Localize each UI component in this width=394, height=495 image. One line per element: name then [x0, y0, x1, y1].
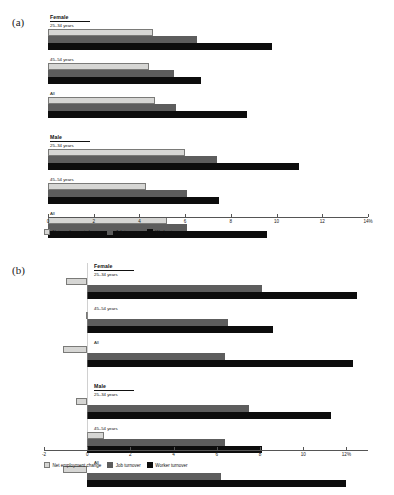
bar-worker-turnover: [48, 163, 299, 170]
bar-net-employment-change: [48, 97, 155, 104]
x-axis-line: [48, 217, 368, 218]
x-axis-tick: [130, 447, 131, 450]
x-axis-tick-label: 10: [274, 219, 279, 224]
bar-net-employment-change: [76, 398, 87, 405]
group-label: 45–54 years: [94, 306, 118, 311]
panel-b: (b) Female25–34 years45–54 yearsAllMale2…: [0, 247, 394, 495]
panel-b-plot: Female25–34 years45–54 yearsAllMale25–34…: [0, 247, 394, 495]
section-header-rule: [94, 390, 134, 391]
bar-worker-turnover: [87, 326, 273, 333]
x-axis-tick-label: -2: [42, 452, 46, 457]
x-axis-tick: [303, 447, 304, 450]
x-axis-tick-label: 6: [184, 219, 187, 224]
x-axis-tick: [94, 214, 95, 217]
section-header-female: Female: [50, 14, 68, 21]
x-axis-line: [44, 450, 368, 451]
x-axis-tick-label: 12%: [342, 452, 351, 457]
bar-net-employment-change: [48, 183, 146, 190]
legend-label-net: Net employment change: [53, 463, 102, 468]
bar-worker-turnover: [87, 292, 357, 299]
x-axis-tick-label: 0: [47, 219, 50, 224]
legend-swatch-job: [107, 462, 113, 468]
legend-swatch-worker: [147, 229, 153, 235]
bar-job-turnover: [48, 156, 217, 163]
x-axis-tick-label: 14%: [363, 219, 372, 224]
x-axis-tick-label: 0: [86, 452, 89, 457]
panel-a: (a) Female25–34 years45–54 yearsAllMale2…: [0, 0, 394, 248]
x-axis-tick-label: 6: [216, 452, 219, 457]
legend-label-job: Job turnover: [116, 463, 141, 468]
legend: Net employment changeJob turnoverWorker …: [44, 462, 187, 468]
bar-worker-turnover: [87, 412, 331, 419]
legend-swatch-net: [44, 462, 50, 468]
group-label: All: [50, 91, 55, 96]
bar-net-employment-change: [63, 346, 87, 353]
x-axis-tick-label: 2: [129, 452, 132, 457]
legend-label-job: Job turnover: [116, 230, 141, 235]
bar-worker-turnover: [87, 480, 346, 487]
section-header-male: Male: [94, 383, 106, 390]
bar-net-employment-change: [48, 63, 149, 70]
bar-job-turnover: [87, 285, 262, 292]
x-axis-tick: [139, 214, 140, 217]
bar-net-employment-change: [66, 278, 88, 285]
bar-net-employment-change: [87, 432, 104, 439]
group-label: All: [50, 211, 55, 216]
x-axis-tick: [260, 447, 261, 450]
x-axis-tick: [231, 214, 232, 217]
x-axis-tick-label: 10: [301, 452, 306, 457]
group-label: 45–54 years: [50, 177, 74, 182]
zero-reference-line: [87, 263, 88, 450]
legend-label-worker: Worker turnover: [155, 230, 187, 235]
bar-job-turnover: [48, 104, 176, 111]
legend-swatch-job: [107, 229, 113, 235]
legend: Net employment changeJob turnoverWorker …: [44, 229, 187, 235]
bar-worker-turnover: [48, 43, 272, 50]
x-axis-tick: [368, 214, 369, 217]
section-header-rule: [94, 270, 134, 271]
legend-swatch-worker: [147, 462, 153, 468]
x-axis-tick-label: 4: [138, 219, 141, 224]
bar-net-employment-change: [48, 29, 153, 36]
x-axis-tick: [277, 214, 278, 217]
x-axis-tick-label: 8: [230, 219, 233, 224]
panel-a-plot: Female25–34 years45–54 yearsAllMale25–34…: [0, 0, 394, 248]
legend-item-net: Net employment change: [44, 462, 101, 468]
group-label: All: [94, 340, 99, 345]
x-axis-tick: [185, 214, 186, 217]
section-header-female: Female: [94, 263, 112, 270]
bar-worker-turnover: [48, 197, 219, 204]
legend-item-worker: Worker turnover: [147, 229, 188, 235]
x-axis-tick-label: 8: [259, 452, 262, 457]
bar-worker-turnover: [48, 77, 201, 84]
group-label: 45–54 years: [94, 426, 118, 431]
x-axis-tick: [346, 447, 347, 450]
group-label: 45–54 years: [50, 57, 74, 62]
x-axis-tick-label: 12: [320, 219, 325, 224]
bar-job-turnover: [87, 353, 225, 360]
bar-worker-turnover: [48, 111, 247, 118]
legend-item-job: Job turnover: [107, 229, 141, 235]
x-axis-tick: [44, 447, 45, 450]
bar-job-turnover: [48, 36, 197, 43]
section-header-rule: [50, 21, 90, 22]
bar-net-employment-change: [48, 149, 185, 156]
bar-worker-turnover: [87, 360, 353, 367]
section-header-rule: [50, 141, 90, 142]
legend-label-net: Net employment change: [53, 230, 102, 235]
x-axis-tick-label: 2: [92, 219, 95, 224]
group-label: 25–34 years: [50, 143, 74, 148]
legend-item-job: Job turnover: [107, 462, 141, 468]
x-axis-tick: [48, 214, 49, 217]
group-label: 25–34 years: [94, 272, 118, 277]
bar-job-turnover: [48, 190, 187, 197]
bar-job-turnover: [87, 473, 221, 480]
x-axis-tick: [322, 214, 323, 217]
bar-job-turnover: [48, 70, 174, 77]
section-header-male: Male: [50, 134, 62, 141]
bar-net-employment-change: [48, 217, 167, 224]
x-axis-tick-label: 4: [172, 452, 175, 457]
bar-job-turnover: [87, 405, 249, 412]
legend-item-net: Net employment change: [44, 229, 101, 235]
legend-label-worker: Worker turnover: [155, 463, 187, 468]
